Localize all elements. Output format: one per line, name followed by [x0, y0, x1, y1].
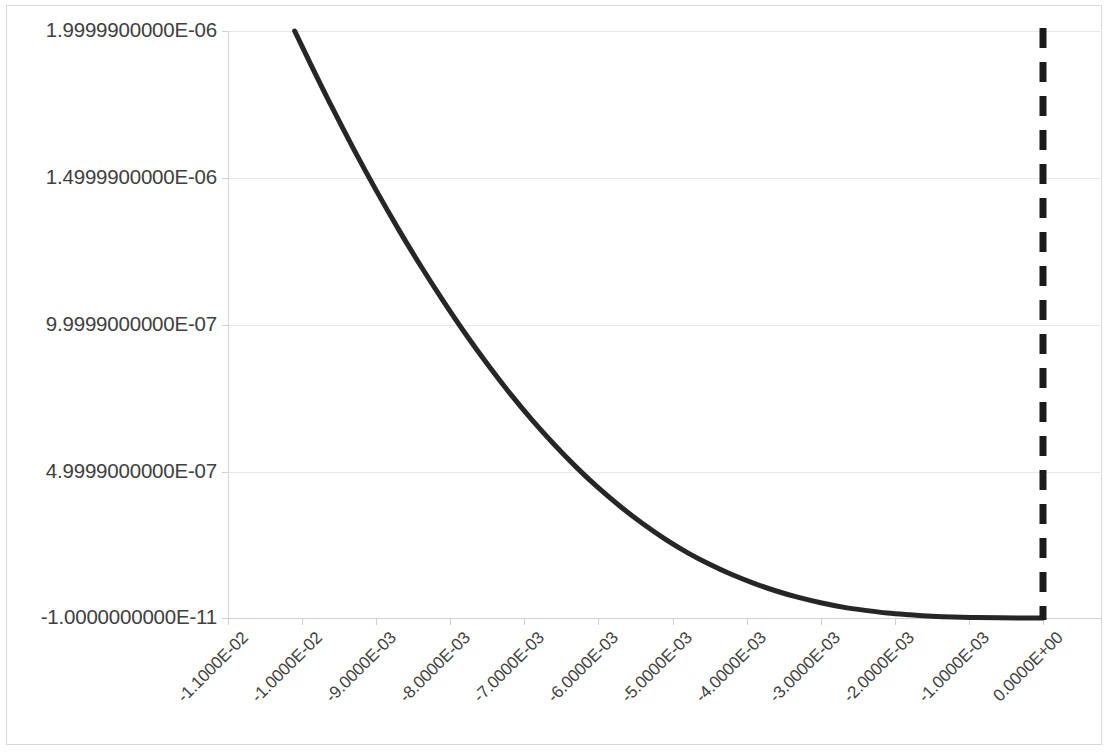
zero-marker-line: [0, 0, 1109, 755]
chart-container: 1.9999900000E-06 1.4999900000E-06 9.9999…: [0, 0, 1109, 755]
